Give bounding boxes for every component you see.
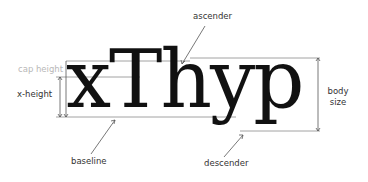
ascender-label: ascender bbox=[193, 11, 232, 21]
baseline-label: baseline bbox=[71, 156, 107, 166]
descender-label: descender bbox=[204, 158, 248, 168]
cap-height-label: cap height bbox=[18, 64, 63, 74]
x-height-label: x-height bbox=[17, 89, 52, 99]
sample-glyphs: xThyp bbox=[66, 40, 302, 120]
body-size-label-line1: body bbox=[326, 86, 350, 96]
body-size-label-line2: size bbox=[326, 97, 350, 107]
descender-pointer bbox=[224, 135, 243, 157]
typography-diagram: xThyp ascender cap height x-height basel… bbox=[0, 0, 368, 182]
